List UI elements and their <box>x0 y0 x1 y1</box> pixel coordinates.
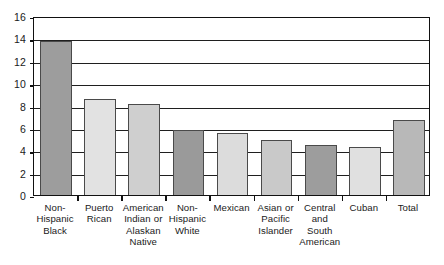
y-axis-tick-label: 0 <box>2 191 26 201</box>
bar-series <box>34 18 429 195</box>
x-axis-category-label: CentralandSouthAmerican <box>298 202 342 248</box>
y-axis-tick-labels: 0246810121416 <box>0 0 26 265</box>
y-axis-tick-mark <box>30 175 34 176</box>
y-axis-tick-mark <box>30 40 34 41</box>
x-axis-category-label-line: and <box>298 213 342 224</box>
x-axis-category-label-line: Asian or <box>254 202 298 213</box>
x-axis-tick-mark <box>298 196 299 201</box>
x-axis-category-label-line: White <box>165 225 209 236</box>
x-axis-category-label-line: Hispanic <box>33 213 77 224</box>
x-axis-category-label-line: Rican <box>77 213 121 224</box>
x-axis-category-label-line: Mexican <box>209 202 253 213</box>
x-axis-category-label-line: Puerto <box>77 202 121 213</box>
x-axis-category-labels: Non-HispanicBlackPuertoRicanAmericanIndi… <box>33 202 430 264</box>
x-axis-category-label: Non-HispanicWhite <box>165 202 209 236</box>
plot-area <box>33 17 430 196</box>
x-axis-category-label: AmericanIndian orAlaskanNative <box>121 202 165 248</box>
bar <box>84 99 116 195</box>
bar <box>305 145 337 195</box>
x-axis-tick-mark <box>342 196 343 201</box>
y-axis-tick-mark <box>30 85 34 86</box>
x-axis-category-label-line: American <box>121 202 165 213</box>
x-axis-tick-mark <box>254 196 255 201</box>
bar <box>261 140 293 195</box>
y-axis-tick-label: 2 <box>2 169 26 179</box>
bar <box>40 41 72 195</box>
x-axis-category-label: PuertoRican <box>77 202 121 225</box>
bar <box>349 147 381 195</box>
y-axis-tick-mark <box>30 152 34 153</box>
y-axis-tick-mark <box>30 130 34 131</box>
x-axis-tick-mark <box>121 196 122 201</box>
x-axis-category-label-line: Native <box>121 236 165 247</box>
x-axis-category-label: Total <box>386 202 430 213</box>
x-axis-category-label-line: American <box>298 236 342 247</box>
x-axis-category-label-line: Non- <box>33 202 77 213</box>
y-axis-tick-label: 14 <box>2 34 26 44</box>
y-axis-tick-label: 16 <box>2 12 26 22</box>
x-axis-category-label: Asian orPacificIslander <box>254 202 298 236</box>
x-axis-category-label: Non-HispanicBlack <box>33 202 77 236</box>
y-axis-tick-label: 4 <box>2 146 26 156</box>
y-axis-tick-mark <box>30 108 34 109</box>
x-axis-category-label-line: Black <box>33 225 77 236</box>
bar <box>393 120 425 195</box>
x-axis-category-label-line: Alaskan <box>121 225 165 236</box>
x-axis-category-label-line: Total <box>386 202 430 213</box>
y-axis-tick-label: 10 <box>2 79 26 89</box>
x-axis-tick-mark <box>165 196 166 201</box>
bar <box>128 104 160 195</box>
x-axis-category-label-line: Non- <box>165 202 209 213</box>
x-axis-category-label-line: South <box>298 225 342 236</box>
bar-chart-figure: 0246810121416 Non-HispanicBlackPuertoRic… <box>0 0 444 265</box>
bar <box>217 133 249 195</box>
x-axis-category-label-line: Indian or <box>121 213 165 224</box>
y-axis-tick-label: 8 <box>2 102 26 112</box>
x-axis-category-label-line: Central <box>298 202 342 213</box>
x-axis-category-label-line: Hispanic <box>165 213 209 224</box>
x-axis-category-label: Mexican <box>209 202 253 213</box>
x-axis-category-label-line: Islander <box>254 225 298 236</box>
y-axis-tick-label: 12 <box>2 57 26 67</box>
y-axis-tick-mark <box>30 18 34 19</box>
x-axis-category-label-line: Pacific <box>254 213 298 224</box>
x-axis-tick-mark <box>386 196 387 201</box>
x-axis-tick-mark <box>77 196 78 201</box>
x-axis-category-label: Cuban <box>342 202 386 213</box>
x-axis-category-label-line: Cuban <box>342 202 386 213</box>
bar <box>173 130 205 195</box>
x-axis-tick-mark <box>209 196 210 201</box>
y-axis-tick-mark <box>30 63 34 64</box>
y-axis-tick-label: 6 <box>2 124 26 134</box>
